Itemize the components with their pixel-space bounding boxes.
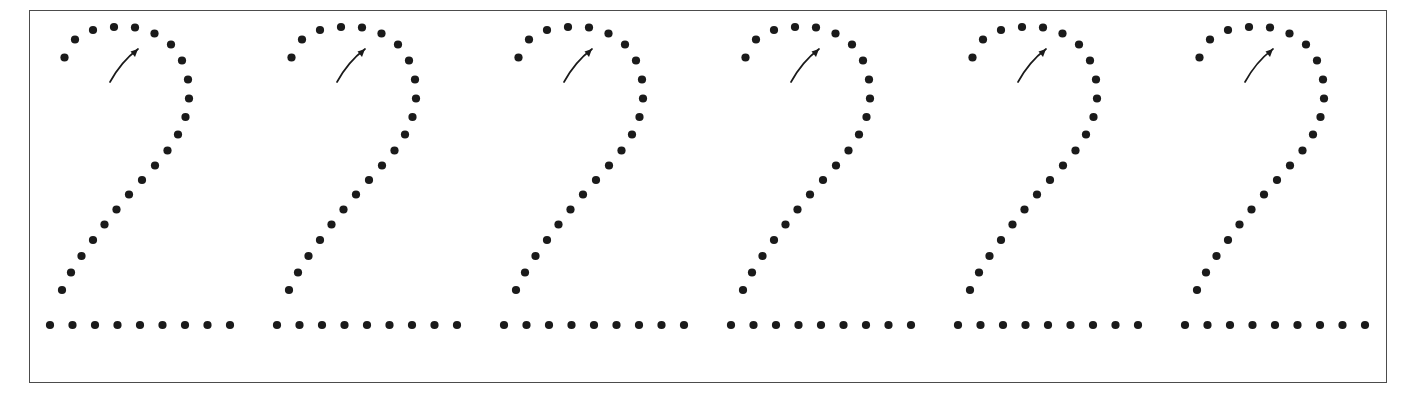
trace-dot [185,94,193,102]
trace-dot [522,321,530,329]
trace-dot [1338,321,1346,329]
trace-dot [184,75,192,83]
trace-dot [1008,220,1016,228]
trace-dot [819,176,827,184]
trace-dot [287,53,295,61]
trace-dot [727,321,735,329]
trace-dot [862,321,870,329]
trace-dot [1089,321,1097,329]
trace-dot [793,205,801,213]
trace-dot [316,236,324,244]
trace-dot [1058,29,1066,37]
trace-dot [181,113,189,121]
trace-dot [1044,321,1052,329]
trace-dot [632,56,640,64]
trace-dot [566,205,574,213]
trace-dot [531,252,539,260]
trace-dot [110,23,118,31]
trace-dot [1285,29,1293,37]
trace-dot [1319,75,1327,83]
trace-dot [806,190,814,198]
trace-dot [848,40,856,48]
trace-dot [839,321,847,329]
trace-dot [752,35,760,43]
trace-dot [564,23,572,31]
trace-dot [318,321,326,329]
traced-numeral-1 [46,23,234,329]
start-stroke-direction-arrow [1018,49,1046,82]
trace-dot [174,130,182,138]
trace-dot [1092,75,1100,83]
trace-dot [408,321,416,329]
trace-dot [178,56,186,64]
trace-dot [1298,146,1306,154]
trace-dot [113,321,121,329]
trace-dot [1271,321,1279,329]
start-stroke-direction-arrow [1245,49,1273,82]
trace-dot [770,26,778,34]
trace-dot [1302,40,1310,48]
trace-dot [412,94,420,102]
trace-dot [1020,205,1028,213]
trace-dot [1111,321,1119,329]
trace-dot [390,146,398,154]
trace-dot [680,321,688,329]
trace-dot [543,236,551,244]
trace-dot [158,321,166,329]
trace-dot [226,321,234,329]
trace-dot [1224,236,1232,244]
traced-numeral-2 [273,23,461,329]
arrow-head-icon [812,49,820,57]
trace-dot [521,268,529,276]
trace-dot [741,53,749,61]
trace-dot [907,321,915,329]
trace-dot [1286,161,1294,169]
trace-dot [1320,94,1328,102]
trace-dot [203,321,211,329]
trace-dot [1245,23,1253,31]
trace-dot [791,23,799,31]
trace-dot [1193,286,1201,294]
trace-dot [68,321,76,329]
trace-dot [1266,23,1274,31]
trace-dot [163,146,171,154]
trace-dot [1316,113,1324,121]
trace-dot [138,176,146,184]
trace-dot [567,321,575,329]
trace-dot [408,113,416,121]
trace-dot [378,161,386,169]
trace-dot [794,321,802,329]
trace-dot [71,35,79,43]
trace-dot [638,75,646,83]
trace-dot [1260,190,1268,198]
trace-dot [273,321,281,329]
trace-dot [294,268,302,276]
trace-dot [1224,26,1232,34]
trace-dot [67,268,75,276]
trace-dot [514,53,522,61]
trace-dot [285,286,293,294]
arrow-head-icon [1266,49,1274,57]
trace-dot [739,286,747,294]
trace-dot [1293,321,1301,329]
trace-dot [525,35,533,43]
trace-dot [865,75,873,83]
arrow-head-icon [1039,49,1047,57]
trace-dot [612,321,620,329]
trace-dot [621,40,629,48]
trace-dot [997,236,1005,244]
arrow-head-icon [585,49,593,57]
trace-dot [1059,161,1067,169]
trace-dot [1203,321,1211,329]
trace-dot [1273,176,1281,184]
trace-dot [385,321,393,329]
trace-dot [999,321,1007,329]
trace-dot [401,130,409,138]
trace-dot [46,321,54,329]
trace-dot [554,220,562,228]
trace-dot [1309,130,1317,138]
trace-dot [832,161,840,169]
trace-dot [1247,205,1255,213]
arrow-head-icon [358,49,366,57]
trace-dot [968,53,976,61]
